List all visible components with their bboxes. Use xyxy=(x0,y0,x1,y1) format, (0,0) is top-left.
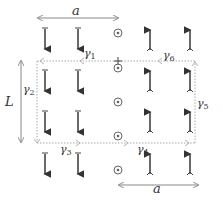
up-arrow-icon xyxy=(187,154,193,175)
up-arrow-icon xyxy=(147,71,153,92)
down-arrow-icon xyxy=(75,70,81,91)
gamma-4: γ4 xyxy=(137,143,149,157)
gamma-labels: γ1 γ2 γ3 γ4 γ5 γ6 xyxy=(23,47,209,157)
up-arrow-icon xyxy=(147,30,153,51)
up-arrow-icon xyxy=(147,112,153,133)
down-arrow-icon xyxy=(42,153,48,174)
spin-diagram: a L a γ1 γ2 γ3 γ4 γ5 γ6 xyxy=(0,0,223,200)
height-label: L xyxy=(4,94,14,109)
down-arrow-icon xyxy=(42,70,48,91)
dot-circle-icon xyxy=(114,166,122,174)
gamma-1: γ1 xyxy=(84,47,96,61)
down-arrow-icon xyxy=(75,111,81,132)
dot-circle-icon xyxy=(114,98,122,106)
up-arrow-icon xyxy=(187,112,193,133)
down-arrow-icon xyxy=(75,153,81,174)
bottom-width-label: a xyxy=(153,181,161,196)
gamma-2: γ2 xyxy=(23,83,35,97)
down-arrow-icon xyxy=(75,28,81,49)
down-arrow-icon xyxy=(42,28,48,49)
top-width-dimension: a xyxy=(38,3,118,18)
bottom-width-dimension: a xyxy=(119,181,198,196)
up-arrow-icon xyxy=(187,71,193,92)
gamma-6: γ6 xyxy=(163,49,175,63)
down-arrow-icon xyxy=(42,111,48,132)
up-arrow-icon xyxy=(147,154,153,175)
dot-circle-icon xyxy=(114,64,122,72)
dot-circle-icon xyxy=(114,29,122,37)
out-of-page-dots xyxy=(114,29,122,174)
dot-circle-icon xyxy=(114,132,122,140)
up-spins xyxy=(147,30,193,175)
gamma-3: γ3 xyxy=(60,143,72,157)
up-arrow-icon xyxy=(187,30,193,51)
gamma-5: γ5 xyxy=(197,97,209,111)
dashed-loop xyxy=(37,61,195,143)
height-dimension: L xyxy=(4,61,21,142)
top-width-label: a xyxy=(72,3,80,18)
